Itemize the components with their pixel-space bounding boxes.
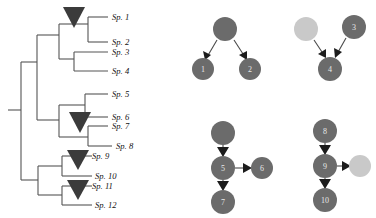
network-3: 5 6 7 bbox=[211, 121, 273, 214]
graph-node-label-3: 3 bbox=[352, 23, 356, 32]
figure-canvas: Sp. 1 Sp. 2 Sp. 3 Sp. 4 Sp. 5 Sp. 6 Sp. … bbox=[0, 0, 376, 218]
tree-markers bbox=[63, 7, 91, 200]
graph-node-label-9: 9 bbox=[323, 162, 327, 171]
tip-label-sp-10: Sp. 10 bbox=[95, 171, 117, 181]
arrowhead-light-to-4 bbox=[318, 49, 326, 58]
network-2: 3 4 bbox=[294, 15, 366, 81]
tip-label-sp-7: Sp. 7 bbox=[112, 121, 130, 131]
graph-node-root-1[interactable] bbox=[213, 17, 237, 41]
graph-node-light-2[interactable] bbox=[349, 155, 371, 177]
graph-node-label-4: 4 bbox=[328, 65, 332, 74]
graph-node-label-1: 1 bbox=[201, 65, 205, 74]
arrowhead-3-to-4 bbox=[334, 48, 342, 58]
network-1: 1 2 bbox=[192, 17, 261, 80]
tip-label-sp-12: Sp. 12 bbox=[95, 200, 117, 210]
graph-node-label-8: 8 bbox=[323, 127, 327, 136]
arrowhead-8-to-9 bbox=[319, 145, 331, 155]
tip-label-sp-1: Sp. 1 bbox=[112, 12, 129, 22]
tip-label-sp-2: Sp. 2 bbox=[112, 37, 130, 47]
arrowhead-root-to-2 bbox=[239, 51, 247, 60]
network-4: 8 9 10 bbox=[313, 119, 371, 212]
tip-label-sp-8: Sp. 8 bbox=[116, 141, 134, 151]
graph-node-label-2: 2 bbox=[248, 65, 252, 74]
arrowhead-5-to-6 bbox=[243, 163, 252, 173]
tip-label-sp-4: Sp. 4 bbox=[112, 66, 130, 76]
graph-node-light-1[interactable] bbox=[294, 17, 318, 41]
tip-label-sp-5: Sp. 5 bbox=[112, 89, 130, 99]
arrowhead-root3-to-5 bbox=[217, 147, 229, 157]
graph-node-label-6: 6 bbox=[260, 164, 264, 173]
arrowhead-9-to-10 bbox=[319, 179, 331, 189]
graph-node-label-7: 7 bbox=[221, 198, 225, 207]
graph-node-label-5: 5 bbox=[221, 164, 225, 173]
tip-label-sp-9: Sp. 9 bbox=[92, 151, 110, 161]
marker-triangle-clade-d bbox=[67, 180, 89, 200]
tip-label-sp-3: Sp. 3 bbox=[112, 47, 129, 57]
marker-triangle-clade-c bbox=[67, 150, 89, 170]
phylogenetic-tree: Sp. 1 Sp. 2 Sp. 3 Sp. 4 Sp. 5 Sp. 6 Sp. … bbox=[8, 7, 134, 210]
marker-triangle-clade-a bbox=[63, 7, 85, 28]
graph-node-root-3[interactable] bbox=[211, 121, 235, 145]
graph-node-label-10: 10 bbox=[321, 196, 329, 205]
tip-label-sp-11: Sp. 11 bbox=[92, 181, 113, 191]
arrowhead-5-to-7 bbox=[217, 181, 229, 191]
